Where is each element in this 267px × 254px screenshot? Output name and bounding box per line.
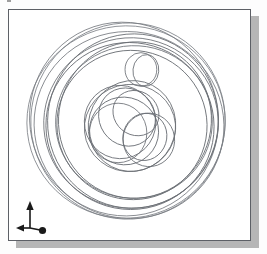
inner-rim-ellipses [28, 22, 235, 229]
scan-artifact-speck [7, 0, 11, 2]
inner-rim-ellipses-outline [53, 43, 215, 201]
arrow-left-icon [16, 224, 30, 231]
axis-origin-dot-icon [30, 227, 46, 234]
arrow-up-icon [26, 201, 33, 228]
hub-cluster-circles [77, 70, 186, 182]
hub-cluster-circles-outline [77, 70, 186, 182]
inner-rim-ellipses-outline [28, 22, 235, 229]
screenshot-stage [0, 0, 267, 254]
bolt-hole-circles [125, 53, 160, 88]
axis-triad-indicator [15, 197, 57, 235]
hub-cluster-circles-outline [117, 108, 173, 167]
isometric-wireframe-viewport[interactable] [8, 9, 251, 241]
mid-rim-ellipses-outline [38, 32, 224, 214]
hub-cluster-circles-outline [89, 103, 147, 162]
